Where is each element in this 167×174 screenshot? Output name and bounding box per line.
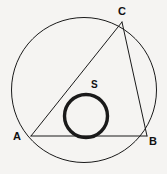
triangle-side-cb — [122, 22, 147, 136]
diagram-canvas — [0, 0, 167, 174]
outer-circumscribed-circle — [12, 18, 157, 163]
inner-circle-s — [65, 95, 108, 138]
vertex-label-b: B — [149, 136, 157, 147]
geometry-diagram: A B C S — [0, 0, 167, 174]
vertex-label-a: A — [13, 131, 21, 142]
vertex-label-c: C — [118, 6, 126, 17]
inner-circle-label-s: S — [91, 80, 98, 90]
